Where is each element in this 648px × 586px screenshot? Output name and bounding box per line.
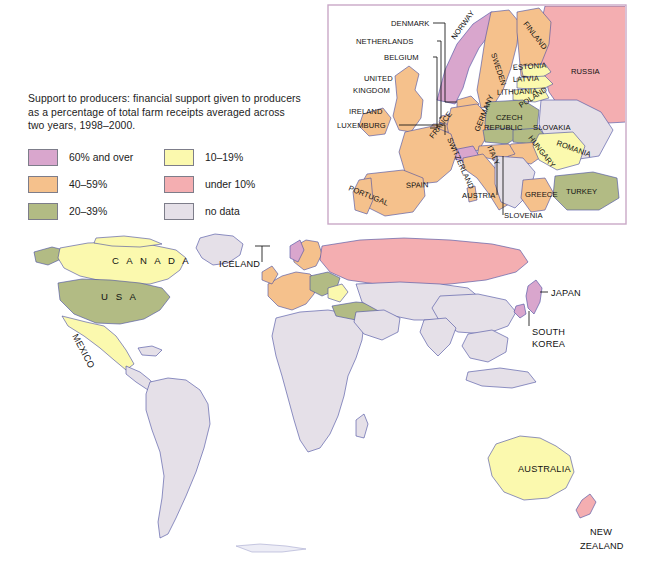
- map-label-new-zealand-2: ZEALAND: [580, 541, 624, 551]
- inset-label-luxemburg: LUXEMBURG: [337, 121, 386, 130]
- region-south-korea: [514, 304, 526, 318]
- europe-inset-map: DENMARKNETHERLANDSBELGIUMUNITEDKINGDOMIR…: [327, 4, 627, 225]
- region-japan: [526, 280, 542, 314]
- inset-label-austria: AUSTRIA: [462, 191, 496, 200]
- map-label-south-korea-2: KOREA: [532, 339, 566, 349]
- region-ocean-detail: [236, 544, 306, 552]
- map-label-south-korea-1: SOUTH: [532, 327, 565, 337]
- inset-label-russia: RUSSIA: [571, 67, 601, 76]
- region-africa: [272, 310, 364, 452]
- inset-label-spain: SPAIN: [406, 180, 429, 190]
- region-indonesia: [466, 368, 536, 388]
- region-russia: [320, 238, 528, 286]
- inset-label-slovakia: SLOVAKIA: [533, 123, 571, 132]
- region-southeast-asia: [462, 330, 508, 362]
- map-label-canada: C A N A D A: [112, 255, 191, 266]
- map-label-iceland: ICELAND: [219, 259, 260, 269]
- region-mexico: [62, 316, 134, 370]
- map-label-usa: U S A: [101, 291, 139, 302]
- inset-label-belgium: BELGIUM: [384, 53, 419, 62]
- inset-label-turkey: TURKEY: [566, 187, 597, 196]
- inset-label-slovenia: SLOVENIA: [504, 211, 543, 220]
- region-new-zealand: [576, 494, 596, 518]
- inset-label-latvia: LATVIA: [513, 74, 540, 84]
- inset-label-ireland: IRELAND: [349, 107, 383, 116]
- map-label-australia: AUSTRALIA: [518, 464, 571, 474]
- region-madagascar: [356, 414, 368, 438]
- world-landmasses: [34, 234, 596, 552]
- inset-label-netherlands: NETHERLANDS: [356, 37, 413, 46]
- inset-label-united-kingdom-2: KINGDOM: [353, 86, 390, 95]
- inset-label-denmark: DENMARK: [391, 19, 430, 28]
- map-label-new-zealand-1: NEW: [590, 527, 612, 537]
- inset-label-czech-republic-2: REPUBLIC: [484, 123, 523, 132]
- region-south-america: [146, 378, 210, 538]
- region-caribbean: [138, 346, 162, 356]
- map-label-japan: JAPAN: [551, 288, 581, 298]
- inset-label-united-kingdom-1: UNITED: [364, 74, 393, 83]
- region-india: [420, 318, 456, 356]
- inset-label-greece: GREECE: [525, 190, 558, 199]
- inset-label-czech-republic-1: CZECH: [496, 113, 523, 122]
